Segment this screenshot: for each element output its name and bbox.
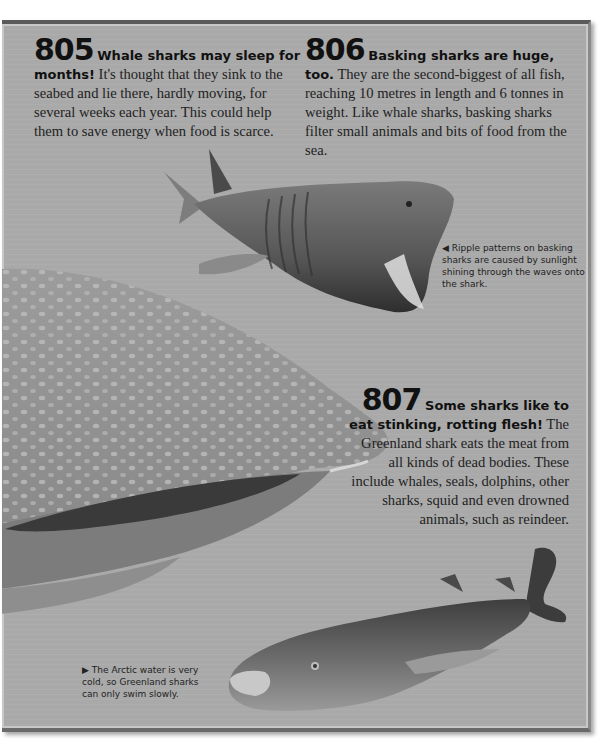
fact-body: The Greenland shark eats the meat from a… bbox=[351, 416, 569, 527]
caption-basking-shark: ◀ Ripple patterns on basking sharks are … bbox=[442, 242, 591, 290]
book-page: 805 Whale sharks may sleep for months! I… bbox=[2, 20, 591, 732]
fact-805: 805 Whale sharks may sleep for months! I… bbox=[34, 36, 304, 141]
basking-shark-illustration bbox=[154, 144, 464, 324]
fact-806: 806 Basking sharks are huge, too. They a… bbox=[305, 36, 570, 160]
arrow-right-icon: ▶ bbox=[82, 665, 89, 675]
greenland-shark-illustration bbox=[215, 544, 575, 724]
fact-number: 805 bbox=[34, 32, 94, 67]
caption-text: Ripple patterns on basking sharks are ca… bbox=[442, 243, 585, 289]
arrow-left-icon: ◀ bbox=[442, 243, 449, 253]
caption-greenland-shark: ▶ The Arctic water is very cold, so Gree… bbox=[82, 664, 212, 700]
fact-807: 807 Some sharks like to eat stinking, ro… bbox=[344, 386, 569, 529]
caption-text: The Arctic water is very cold, so Greenl… bbox=[82, 665, 199, 699]
fact-body: They are the second-biggest of all fish,… bbox=[305, 66, 567, 158]
fact-number: 806 bbox=[305, 32, 365, 67]
fact-number: 807 bbox=[362, 382, 422, 417]
